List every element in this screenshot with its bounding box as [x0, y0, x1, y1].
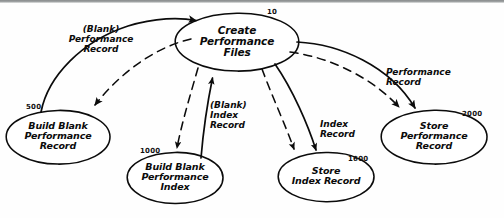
edge-label-blank-performance-record: (Blank) Performance Record [55, 24, 147, 54]
connection-data-to-store-index-record [262, 69, 294, 149]
edge-label-index-record: Index Record [320, 119, 355, 139]
edge-label-performance-record: Performance Record [386, 67, 451, 87]
connection-data-to-store-performance-record [290, 52, 399, 107]
node-number-store-performance-record: 2000 [462, 110, 482, 118]
node-build-blank-performance-record[interactable] [6, 110, 110, 164]
node-build-blank-performance-index[interactable] [127, 152, 223, 203]
edge-label-blank-index-record: (Blank) Index Record [210, 100, 247, 130]
connection-data-to-build-blank-performance-index [177, 68, 198, 148]
connection-call-index-record [275, 64, 316, 150]
node-number-build-blank-performance-index: 1000 [140, 147, 160, 155]
node-number-store-index-record: 1600 [348, 155, 368, 163]
diagram-page: Create Performance Files 10 Build Blank … [0, 0, 504, 218]
node-number-build-blank-performance-record: 500 [26, 103, 41, 111]
node-number-create-performance-files: 10 [267, 8, 277, 16]
node-store-performance-record[interactable] [381, 110, 487, 164]
node-create-performance-files[interactable] [175, 13, 299, 71]
